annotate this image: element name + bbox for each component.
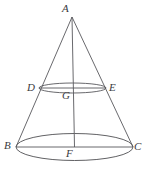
vertex-label-A: A [62, 3, 69, 14]
vertex-label-F: F [66, 148, 73, 159]
vertex-label-C: C [134, 141, 141, 152]
vertex-label-D: D [27, 82, 35, 93]
slant-edge-left-AB [16, 17, 72, 147]
cone-axis-AF [72, 17, 75, 147]
vertex-label-B: B [4, 140, 11, 151]
vertex-label-G: G [62, 90, 70, 101]
vertex-label-E: E [109, 82, 116, 93]
cone-diagram-svg [0, 0, 148, 169]
cone-diagram: A D E G B C F [0, 0, 148, 169]
slant-edge-right-AC [72, 17, 133, 147]
